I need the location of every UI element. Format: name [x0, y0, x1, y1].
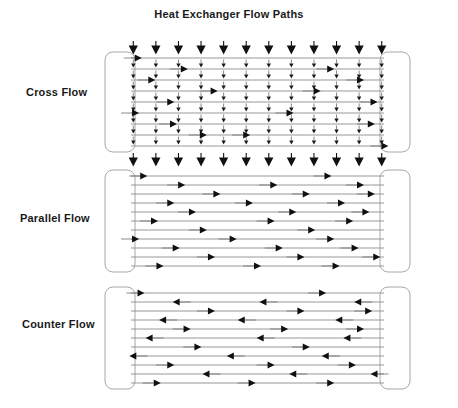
- shell-tick-arrow-down: [289, 86, 293, 90]
- shell-tick-arrow-down: [221, 64, 225, 68]
- tube-flow-arrow-right: [156, 263, 163, 270]
- shell-tick-arrow-down: [334, 141, 338, 145]
- tube-flow-arrow-left: [173, 299, 180, 306]
- tube-flow-arrow-right: [368, 191, 375, 198]
- shell-tick-arrow-down: [357, 64, 361, 68]
- shell-tick-arrow-down: [154, 75, 158, 79]
- shell-tick-arrow-down: [312, 141, 316, 145]
- shell-flow-arrow-down: [196, 46, 205, 55]
- tube-flow-arrow-right: [327, 66, 334, 73]
- tube-flow-arrow-right: [371, 99, 378, 106]
- tube-flow-arrow-right: [151, 218, 158, 225]
- shell-tick-arrow-down: [221, 75, 225, 79]
- shell-tick-arrow-down: [176, 130, 180, 134]
- tube-flow-arrow-left: [146, 335, 153, 342]
- tube-flow-arrow-left: [203, 371, 210, 378]
- page-title: Heat Exchanger Flow Paths: [0, 8, 458, 20]
- shell-tick-arrow-down: [199, 64, 203, 68]
- shell-tick-arrow-down: [221, 130, 225, 134]
- tube-flow-arrow-right: [189, 209, 196, 216]
- right-header-tank: [380, 52, 410, 152]
- shell-tick-arrow-down: [154, 64, 158, 68]
- tube-flow-arrow-right: [213, 191, 220, 198]
- tube-flow-arrow-left: [257, 335, 264, 342]
- left-header-tank: [105, 287, 135, 389]
- shell-tick-arrow-down: [357, 97, 361, 101]
- panel-label-parallel-flow: Parallel Flow: [20, 212, 90, 224]
- shell-tick-arrow-down: [221, 86, 225, 90]
- tube-flow-arrow-right: [170, 121, 177, 128]
- shell-tick-arrow-down: [244, 86, 248, 90]
- shell-tick-arrow-down: [176, 97, 180, 101]
- shell-tick-arrow-down: [267, 108, 271, 112]
- tube-flow-arrow-left: [371, 371, 378, 378]
- tube-flow-arrow-right: [200, 132, 207, 139]
- shell-tick-arrow-down: [267, 97, 271, 101]
- tube-flow-arrow-right: [303, 344, 310, 351]
- shell-tick-arrow-down: [154, 141, 158, 145]
- shell-tick-arrow-down: [154, 97, 158, 101]
- shell-tick-arrow-down: [312, 108, 316, 112]
- shell-tick-arrow-down: [176, 108, 180, 112]
- shell-tick-arrow-down: [289, 119, 293, 123]
- tube-flow-arrow-right: [246, 200, 253, 207]
- tube-flow-arrow-right: [154, 380, 161, 387]
- shell-flow-arrow-down: [242, 46, 251, 55]
- shell-tick-arrow-down: [267, 64, 271, 68]
- shell-tick-arrow-down: [289, 130, 293, 134]
- tube-flow-arrow-left: [354, 299, 361, 306]
- tube-flow-arrow-right: [211, 88, 218, 95]
- tube-flow-arrow-right: [365, 308, 372, 315]
- shell-tick-arrow-down: [244, 64, 248, 68]
- tube-flow-arrow-right: [319, 290, 326, 297]
- shell-tick-arrow-down: [199, 75, 203, 79]
- tube-flow-arrow-right: [230, 236, 237, 243]
- counter-flow-panel: [105, 283, 425, 393]
- shell-tick-arrow-down: [244, 141, 248, 145]
- tube-flow-arrow-left: [238, 317, 245, 324]
- tube-flow-arrow-right: [333, 263, 340, 270]
- tube-flow-arrow-right: [132, 236, 139, 243]
- shell-tick-arrow-down: [244, 97, 248, 101]
- shell-tick-arrow-down: [176, 141, 180, 145]
- shell-tick-arrow-down: [312, 75, 316, 79]
- shell-flow-arrow-down: [309, 46, 318, 55]
- tube-flow-arrow-right: [303, 191, 310, 198]
- tube-flow-arrow-right: [181, 66, 188, 73]
- tube-flow-arrow-right: [373, 254, 380, 261]
- shell-tick-arrow-down: [267, 130, 271, 134]
- tube-flow-arrow-left: [343, 335, 350, 342]
- tube-flow-arrow-right: [167, 200, 174, 207]
- shell-tick-arrow-down: [267, 119, 271, 123]
- shell-flow-arrow-down: [219, 46, 228, 55]
- tube-flow-arrow-right: [167, 99, 174, 106]
- shell-tick-arrow-down: [334, 64, 338, 68]
- tube-flow-arrow-right: [135, 55, 142, 62]
- shell-tick-arrow-down: [199, 141, 203, 145]
- shell-tick-arrow-down: [221, 108, 225, 112]
- tube-flow-arrow-right: [346, 218, 353, 225]
- tube-flow-arrow-right: [268, 218, 275, 225]
- shell-flow-arrow-down: [332, 46, 341, 55]
- shell-tick-arrow-down: [357, 108, 361, 112]
- shell-tick-arrow-down: [244, 75, 248, 79]
- panel-label-counter-flow: Counter Flow: [22, 318, 95, 330]
- tube-flow-arrow-right: [297, 308, 304, 315]
- tube-flow-arrow-right: [357, 77, 364, 84]
- right-header-tank: [380, 170, 410, 272]
- shell-flow-arrow-down: [355, 46, 364, 55]
- shell-tick-arrow-down: [357, 130, 361, 134]
- shell-tick-arrow-down: [176, 119, 180, 123]
- cross-flow-panel: [105, 30, 425, 162]
- shell-tick-arrow-down: [267, 86, 271, 90]
- shell-flow-arrow-down: [174, 46, 183, 55]
- tube-flow-arrow-right: [270, 182, 277, 189]
- tube-flow-arrow-right: [362, 209, 369, 216]
- tube-flow-arrow-right: [208, 254, 215, 261]
- shell-flow-arrow-down: [264, 46, 273, 55]
- parallel-flow-panel: [105, 166, 425, 276]
- shell-tick-arrow-down: [357, 141, 361, 145]
- tube-flow-arrow-right: [148, 77, 155, 84]
- shell-tick-arrow-down: [312, 130, 316, 134]
- tube-flow-arrow-right: [173, 245, 180, 252]
